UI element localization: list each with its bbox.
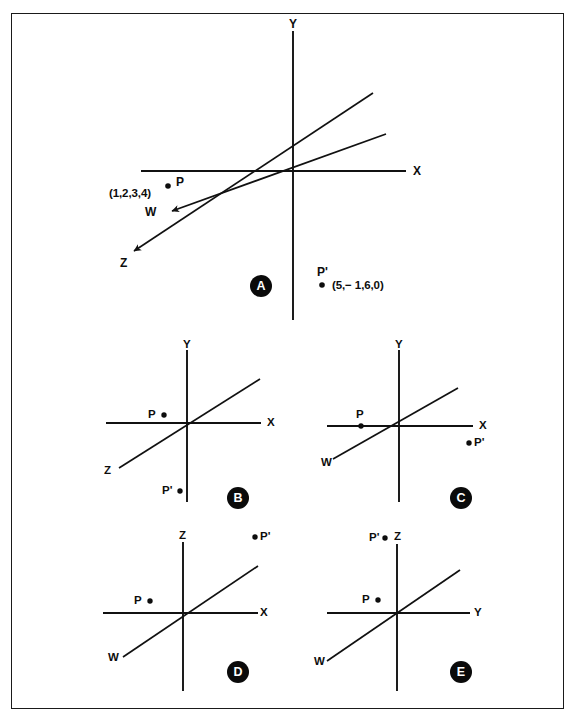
panel-b-label-z: Z [104, 465, 111, 477]
panel-d-label-pprime: P' [260, 531, 270, 543]
panel-d-label-w: W [108, 652, 119, 664]
panel-d-label-z: Z [179, 530, 186, 542]
panel-c: Y X W P P' C [295, 339, 510, 514]
panel-b: Y X Z P P' B [72, 339, 287, 514]
panel-d: Z X W P P' D [72, 519, 292, 699]
panel-b-label-p: P [148, 409, 156, 421]
panel-b-label-x: X [267, 417, 275, 429]
panel-a: Y X W Z P (1,2,3,4) P' (5,− 1,6,0) A [12, 14, 432, 324]
panel-d-label-x: X [260, 607, 268, 619]
panel-a-label-w: W [145, 206, 156, 218]
panel-d-axis-w [123, 566, 258, 657]
panel-e-axis-w [327, 570, 460, 661]
panel-a-label-y: Y [289, 18, 297, 30]
panel-b-label-pprime: P' [162, 485, 172, 497]
panel-d-point-p-dot [147, 598, 152, 603]
panel-c-axis-w [333, 388, 458, 459]
figure-border-frame: Y X W Z P (1,2,3,4) P' (5,− 1,6,0) A Y X… [11, 13, 564, 709]
panel-c-label-p: P [356, 409, 364, 421]
panel-a-point-pprime-dot [319, 282, 325, 288]
panel-e-plot [295, 519, 515, 699]
panel-b-label-y: Y [183, 339, 191, 351]
panel-c-label-w: W [321, 457, 332, 469]
panel-a-axis-w [172, 134, 386, 211]
panel-b-point-p-dot [161, 412, 166, 417]
panel-a-label-pprime: P' [317, 266, 328, 278]
figure-root: Y X W Z P (1,2,3,4) P' (5,− 1,6,0) A Y X… [0, 0, 577, 721]
panel-c-label-y: Y [395, 339, 403, 351]
panel-e: Z Y W P P' E [295, 519, 515, 699]
panel-e-label-pprime: P' [369, 532, 379, 544]
panel-c-point-pprime-dot [466, 440, 471, 445]
panel-a-label-x: X [413, 165, 421, 177]
panel-c-badge: C [450, 487, 472, 509]
panel-d-badge: D [227, 661, 249, 683]
panel-a-coords-pprime: (5,− 1,6,0) [332, 280, 384, 292]
panel-a-label-p: P [176, 176, 184, 188]
panel-b-badge: B [227, 487, 249, 509]
panel-d-point-pprime-dot [252, 534, 257, 539]
panel-b-plot [72, 339, 287, 514]
panel-c-point-p-dot [358, 423, 363, 428]
panel-c-label-pprime: P' [474, 437, 484, 449]
panel-e-point-pprime-dot [382, 535, 387, 540]
panel-a-badge: A [250, 275, 272, 297]
panel-e-label-w: W [314, 656, 325, 668]
panel-a-plot [12, 14, 432, 324]
panel-b-point-pprime-dot [177, 488, 182, 493]
panel-a-coords-p: (1,2,3,4) [109, 188, 151, 200]
panel-c-label-x: X [479, 420, 487, 432]
panel-e-label-y: Y [474, 607, 482, 619]
panel-e-badge: E [450, 661, 472, 683]
panel-e-point-p-dot [375, 597, 380, 602]
panel-c-plot [295, 339, 510, 514]
panel-a-point-p-dot [165, 183, 171, 189]
panel-a-axis-z [134, 93, 373, 251]
panel-e-label-p: P [362, 594, 370, 606]
panel-e-label-z: Z [394, 531, 401, 543]
panel-d-label-p: P [134, 595, 142, 607]
panel-d-plot [72, 519, 292, 699]
panel-a-label-z: Z [120, 257, 127, 269]
